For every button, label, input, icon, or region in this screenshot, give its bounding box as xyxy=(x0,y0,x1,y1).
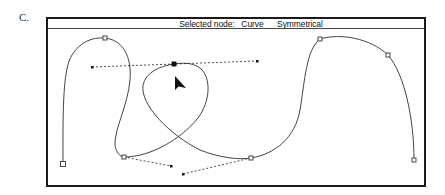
bezier-curve[interactable] xyxy=(63,37,414,164)
control-point[interactable] xyxy=(91,66,94,69)
curve-node[interactable] xyxy=(61,162,66,167)
drawing-canvas[interactable] xyxy=(0,0,445,195)
control-handle-line xyxy=(183,158,251,174)
curve-node[interactable] xyxy=(103,36,107,40)
control-point[interactable] xyxy=(182,173,185,176)
control-point[interactable] xyxy=(170,165,173,168)
control-handle-line xyxy=(124,157,171,166)
curve-node[interactable] xyxy=(386,53,390,57)
curve-node[interactable] xyxy=(318,37,322,41)
mouse-pointer-icon xyxy=(175,76,186,90)
curve-node[interactable] xyxy=(412,158,416,162)
control-point[interactable] xyxy=(256,60,259,63)
curve-node[interactable] xyxy=(249,156,253,160)
selected-node[interactable] xyxy=(172,62,176,66)
curve-node[interactable] xyxy=(122,155,126,159)
